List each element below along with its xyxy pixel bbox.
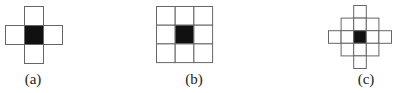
neighbor-cell: [366, 31, 379, 44]
neighbor-cell: [194, 25, 213, 44]
center-cell: [175, 25, 194, 44]
figure-c-label: (c): [358, 71, 375, 88]
neighbor-cell: [194, 7, 213, 26]
neighbor-cell: [354, 43, 367, 56]
neighbor-cell: [175, 7, 194, 26]
center-cell: [354, 31, 367, 44]
figure-c-grid: [329, 6, 392, 69]
neighbor-cell: [354, 56, 367, 69]
neighbor-cell: [341, 18, 354, 31]
neighbor-cell: [379, 31, 392, 44]
figure-a-grid: [6, 7, 63, 64]
neighbor-cell: [25, 45, 44, 64]
neighbor-cell: [157, 25, 176, 44]
neighbor-cell: [157, 7, 176, 26]
neighbor-cell: [366, 18, 379, 31]
neighbor-cell: [44, 26, 63, 45]
neighbor-cell: [329, 31, 342, 44]
neighbor-cell: [341, 31, 354, 44]
neighbor-cell: [354, 18, 367, 31]
figure-b-grid: [157, 7, 213, 63]
center-cell: [25, 26, 44, 45]
figure-a-label: (a): [25, 71, 42, 88]
neighbor-cell: [6, 26, 25, 45]
figure-b-label: (b): [185, 71, 203, 88]
neighbor-cell: [25, 7, 44, 26]
neighbor-cell: [175, 44, 194, 63]
neighbor-cell: [157, 44, 176, 63]
neighbor-cell: [366, 43, 379, 56]
neighbor-cell: [354, 6, 367, 19]
neighbor-cell: [194, 44, 213, 63]
neighbor-cell: [341, 43, 354, 56]
